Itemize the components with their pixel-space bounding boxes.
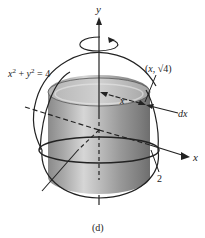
x-axis-arrowhead-icon (181, 152, 190, 160)
thickness-label: dx (178, 108, 188, 119)
solid-of-revolution-diagram: y x x dx (x, √4) 2 x2 + y2 = 4 (d) (0, 0, 205, 238)
thickness-arrow (146, 104, 178, 113)
y-axis-label: y (95, 3, 101, 15)
y-axis-arrowhead-icon (96, 17, 102, 25)
tick-label: 2 (157, 173, 162, 184)
point-label: (x, √4) (145, 63, 172, 75)
radius-label: x (119, 95, 125, 106)
figure-caption: (d) (92, 222, 104, 234)
x-axis-label: x (192, 151, 198, 163)
equation-label: x2 + y2 = 4 (7, 67, 50, 79)
